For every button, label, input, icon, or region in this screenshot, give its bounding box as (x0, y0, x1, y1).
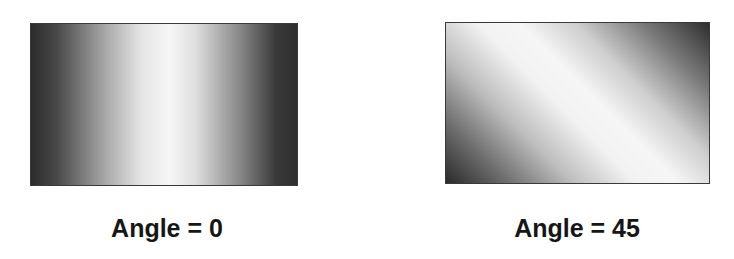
gradient-angle-0-swatch (30, 23, 298, 186)
angle-0-label: Angle = 0 (37, 214, 297, 243)
gradient-angle-45-swatch (445, 22, 710, 184)
angle-45-label: Angle = 45 (447, 214, 707, 243)
